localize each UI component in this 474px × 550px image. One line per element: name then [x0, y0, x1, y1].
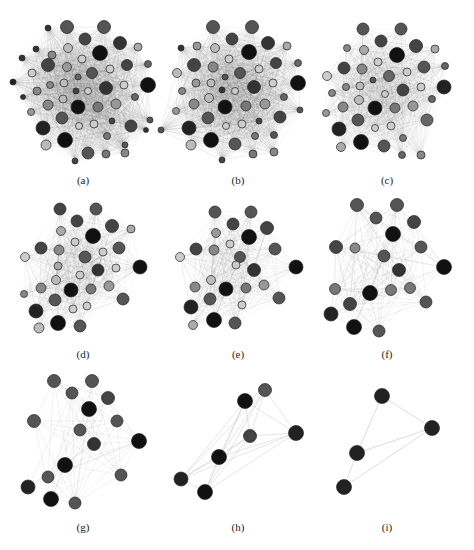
- graph-node: [134, 43, 142, 51]
- graph-node: [98, 21, 111, 34]
- graph-node: [52, 276, 61, 285]
- graph-node: [259, 384, 272, 397]
- edge: [205, 401, 245, 492]
- graph-node: [350, 446, 365, 461]
- nodes-h: [174, 384, 304, 500]
- graph-node: [189, 99, 199, 109]
- graph-node: [120, 81, 128, 89]
- graph-node: [212, 450, 227, 465]
- nodes-f: [324, 199, 452, 338]
- graph-node: [442, 63, 449, 70]
- graph-node: [75, 74, 81, 80]
- graph-node: [437, 260, 452, 275]
- graph-node: [88, 438, 101, 451]
- graph-node: [273, 292, 285, 304]
- graph-node: [393, 264, 406, 277]
- graph-node: [111, 415, 123, 427]
- graph-node: [219, 157, 225, 163]
- graph-node: [184, 300, 198, 314]
- graph-node: [74, 424, 86, 436]
- graph-node: [45, 25, 51, 31]
- graph-node: [211, 44, 220, 53]
- graph-node: [44, 492, 59, 507]
- graph-node: [391, 199, 404, 212]
- edge: [181, 433, 296, 479]
- graph-node: [92, 264, 104, 276]
- edge: [34, 421, 51, 499]
- graph-node: [179, 88, 186, 95]
- graph-node: [49, 294, 61, 306]
- graph-node: [410, 40, 423, 53]
- graph-node: [399, 152, 406, 159]
- caption-a: (a): [77, 174, 89, 186]
- graph-node: [418, 61, 430, 73]
- graph-node: [351, 199, 364, 212]
- edge: [54, 381, 108, 398]
- graph-node: [330, 241, 343, 254]
- graph-node: [132, 434, 147, 449]
- graph-node: [390, 48, 405, 63]
- graph-node: [225, 55, 233, 63]
- graph-node: [106, 65, 114, 73]
- graph-node: [190, 282, 200, 292]
- edge: [336, 205, 357, 247]
- graph-node: [111, 99, 121, 109]
- graph-node: [390, 103, 400, 113]
- caption-g: (g): [77, 521, 90, 533]
- graph-node: [241, 101, 251, 111]
- graph-node: [115, 469, 127, 481]
- graph-node: [29, 304, 43, 318]
- graph-node: [82, 402, 97, 417]
- graph-node: [387, 122, 395, 130]
- graph-node: [158, 127, 164, 133]
- edge: [235, 265, 236, 323]
- graph-node: [249, 150, 257, 158]
- graph-node: [338, 62, 350, 74]
- graph-node: [86, 284, 96, 294]
- graph-node: [405, 283, 416, 294]
- graph-node: [79, 33, 91, 45]
- graph-node: [386, 227, 401, 242]
- graph-node: [204, 133, 219, 148]
- graph-node: [63, 63, 72, 72]
- graph-node: [329, 90, 336, 97]
- graph-node: [192, 79, 200, 87]
- graph-node: [425, 421, 440, 436]
- graph-node: [431, 45, 439, 53]
- graph-node: [420, 296, 432, 308]
- graph-node: [54, 203, 66, 215]
- graph-node: [106, 220, 119, 233]
- graph-node: [337, 143, 346, 152]
- graph-node: [245, 206, 257, 218]
- graph-node: [71, 238, 79, 246]
- caption-i: (i): [382, 521, 392, 533]
- network-panel-b: [158, 21, 306, 164]
- graph-node: [102, 392, 115, 405]
- edges-g: [28, 381, 139, 503]
- graph-node: [76, 123, 83, 130]
- graph-node: [350, 243, 360, 253]
- graph-node: [297, 107, 303, 113]
- graph-node: [271, 58, 282, 69]
- edge: [357, 396, 382, 453]
- graph-node: [260, 99, 270, 109]
- graph-node: [147, 117, 153, 123]
- edge: [24, 257, 25, 294]
- graph-node: [35, 242, 47, 254]
- graph-node: [219, 87, 225, 93]
- graph-node: [121, 149, 129, 157]
- graph-node: [41, 140, 51, 150]
- graph-node: [289, 426, 304, 441]
- graph-node: [289, 260, 303, 274]
- graph-node: [262, 37, 275, 50]
- graph-node: [209, 245, 219, 255]
- edge: [357, 205, 384, 256]
- graph-node: [86, 375, 99, 388]
- graph-node: [242, 45, 257, 60]
- graph-node: [274, 111, 286, 123]
- graph-node: [384, 71, 395, 82]
- graph-node: [51, 316, 66, 331]
- network-panel-f: [324, 199, 452, 338]
- graph-node: [227, 218, 239, 230]
- edges-i: [344, 396, 432, 487]
